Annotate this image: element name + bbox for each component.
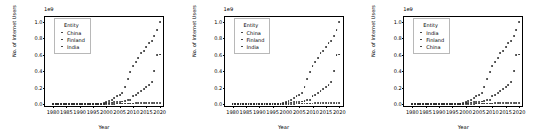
x-tick-label: 2000 bbox=[459, 109, 472, 115]
data-point bbox=[277, 103, 279, 105]
data-point bbox=[232, 103, 234, 105]
data-point bbox=[486, 99, 488, 101]
legend-item-china[interactable]: China bbox=[58, 29, 85, 36]
x-tick-label: 1980 bbox=[226, 109, 239, 115]
data-point bbox=[148, 103, 150, 105]
data-point bbox=[100, 103, 102, 105]
data-point bbox=[145, 86, 147, 88]
data-point bbox=[491, 65, 493, 67]
y-tick-label: 1.0 bbox=[394, 19, 402, 25]
data-point bbox=[103, 103, 105, 105]
y-tick-mark bbox=[223, 55, 225, 56]
data-point bbox=[132, 95, 134, 97]
data-point bbox=[121, 101, 123, 103]
data-point bbox=[140, 52, 142, 54]
data-point bbox=[266, 103, 268, 105]
data-point bbox=[52, 103, 54, 105]
legend-item-finland[interactable]: Finland bbox=[58, 36, 85, 43]
data-point bbox=[320, 103, 322, 105]
data-point bbox=[116, 101, 118, 103]
x-tick-mark bbox=[80, 106, 81, 108]
x-tick-label: 2015 bbox=[140, 109, 153, 115]
data-point bbox=[159, 54, 161, 56]
data-point bbox=[467, 100, 469, 102]
data-point bbox=[312, 65, 314, 67]
data-point bbox=[314, 103, 316, 105]
data-point bbox=[156, 54, 158, 56]
x-tick-label: 1985 bbox=[60, 109, 73, 115]
data-point bbox=[338, 54, 340, 56]
data-point bbox=[143, 50, 145, 52]
data-point bbox=[121, 92, 123, 94]
data-point bbox=[140, 90, 142, 92]
data-point bbox=[443, 103, 445, 105]
data-point bbox=[81, 103, 83, 105]
y-tick-mark bbox=[402, 38, 404, 39]
data-point bbox=[489, 71, 491, 73]
data-point bbox=[301, 103, 303, 105]
data-point bbox=[280, 103, 282, 105]
data-point bbox=[309, 103, 311, 105]
data-point bbox=[145, 47, 147, 49]
legend-item-finland[interactable]: Finland bbox=[417, 36, 444, 43]
data-point bbox=[306, 99, 308, 101]
y-tick-label: 0.6 bbox=[214, 52, 222, 58]
data-point bbox=[137, 93, 139, 95]
data-point bbox=[97, 103, 99, 105]
data-point bbox=[330, 40, 332, 42]
data-point bbox=[467, 103, 469, 105]
data-point bbox=[288, 102, 290, 104]
legend-item-china[interactable]: China bbox=[238, 29, 265, 36]
legend-item-label: Finland bbox=[426, 37, 444, 43]
data-point bbox=[116, 95, 118, 97]
y-tick-label: 0.4 bbox=[214, 68, 222, 74]
legend-marker-icon bbox=[417, 46, 425, 48]
data-point bbox=[473, 103, 475, 105]
data-point bbox=[317, 103, 319, 105]
chart-panel-3: 1e90.00.20.40.60.81.01980198519901995200… bbox=[359, 0, 539, 135]
data-point bbox=[430, 103, 432, 105]
legend: EntityChinaFinlandIndia bbox=[54, 18, 91, 54]
legend-item-india[interactable]: India bbox=[58, 43, 85, 50]
legend-item-label: Finland bbox=[247, 37, 265, 43]
legend-item-china[interactable]: China bbox=[417, 43, 444, 50]
data-point bbox=[454, 103, 456, 105]
data-point bbox=[328, 103, 330, 105]
data-point bbox=[119, 94, 121, 96]
legend-item-finland[interactable]: Finland bbox=[238, 36, 265, 43]
legend-item-india[interactable]: India bbox=[238, 43, 265, 50]
legend: EntityChinaFinlandIndia bbox=[234, 18, 271, 54]
data-point bbox=[156, 102, 158, 104]
data-point bbox=[65, 103, 67, 105]
data-point bbox=[89, 103, 91, 105]
y-tick-mark bbox=[43, 71, 45, 72]
data-point bbox=[73, 103, 75, 105]
y-axis-label: No. of Internet Users bbox=[370, 0, 376, 71]
x-tick-label: 2000 bbox=[280, 109, 293, 115]
data-point bbox=[309, 99, 311, 101]
data-point bbox=[153, 35, 155, 37]
y-tick-label: 0.2 bbox=[394, 85, 402, 91]
x-tick-label: 1995 bbox=[87, 109, 100, 115]
data-point bbox=[298, 94, 300, 96]
data-point bbox=[515, 29, 517, 31]
x-tick-mark bbox=[146, 106, 147, 108]
y-tick-mark bbox=[223, 71, 225, 72]
x-tick-mark bbox=[339, 106, 340, 108]
data-point bbox=[435, 103, 437, 105]
data-point bbox=[282, 103, 284, 105]
x-tick-label: 1980 bbox=[406, 109, 419, 115]
x-tick-label: 2015 bbox=[320, 109, 333, 115]
figure-scatter-grid: 1e90.00.20.40.60.81.01980198519901995200… bbox=[0, 0, 539, 135]
legend-marker-icon bbox=[58, 46, 66, 48]
data-point bbox=[87, 103, 89, 105]
data-point bbox=[159, 21, 161, 23]
x-tick-mark bbox=[53, 106, 54, 108]
data-point bbox=[333, 102, 335, 104]
y-tick-mark bbox=[43, 104, 45, 105]
data-point bbox=[475, 95, 477, 97]
data-point bbox=[333, 70, 335, 72]
data-point bbox=[258, 103, 260, 105]
data-point bbox=[475, 103, 477, 105]
legend-item-india[interactable]: India bbox=[417, 29, 444, 36]
